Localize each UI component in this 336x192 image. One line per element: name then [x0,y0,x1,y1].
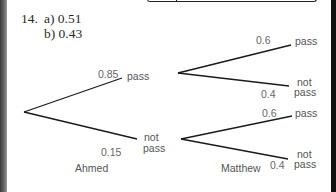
prob-matthew-not-pass-2: 0.4 [270,159,285,171]
prob-ahmed-not-pass: 0.15 [101,146,122,158]
stage-label-matthew: Matthew [221,162,261,174]
branch-matthew-pass-after-not-pass [181,116,292,139]
prob-matthew-not-pass-1: 0.4 [261,88,276,100]
branch-matthew-not-pass-after-not-pass [181,139,288,159]
outcome-matthew-pass-2: pass [295,107,317,119]
outcome-matthew-not-pass-2: pass [294,158,316,170]
outcome-ahmed-pass: pass [127,70,149,82]
prob-matthew-pass-1: 0.6 [256,34,271,46]
branch-ahmed-pass [24,78,122,112]
branch-matthew-pass-after-pass [178,45,291,73]
prob-matthew-pass-2: 0.6 [262,107,277,119]
outcome-matthew-not-pass-1: pass [294,86,316,98]
prob-ahmed-pass: 0.85 [98,68,119,80]
stage-label-ahmed: Ahmed [75,162,108,174]
branch-ahmed-not-pass [24,112,137,139]
probability-tree-diagram: 0.85 pass 0.15 not pass 0.6 pass 0.4 not… [0,0,336,192]
branch-matthew-not-pass-after-pass [178,73,289,86]
outcome-ahmed-not-pass: pass [143,142,165,154]
outcome-matthew-pass-1: pass [295,35,317,47]
